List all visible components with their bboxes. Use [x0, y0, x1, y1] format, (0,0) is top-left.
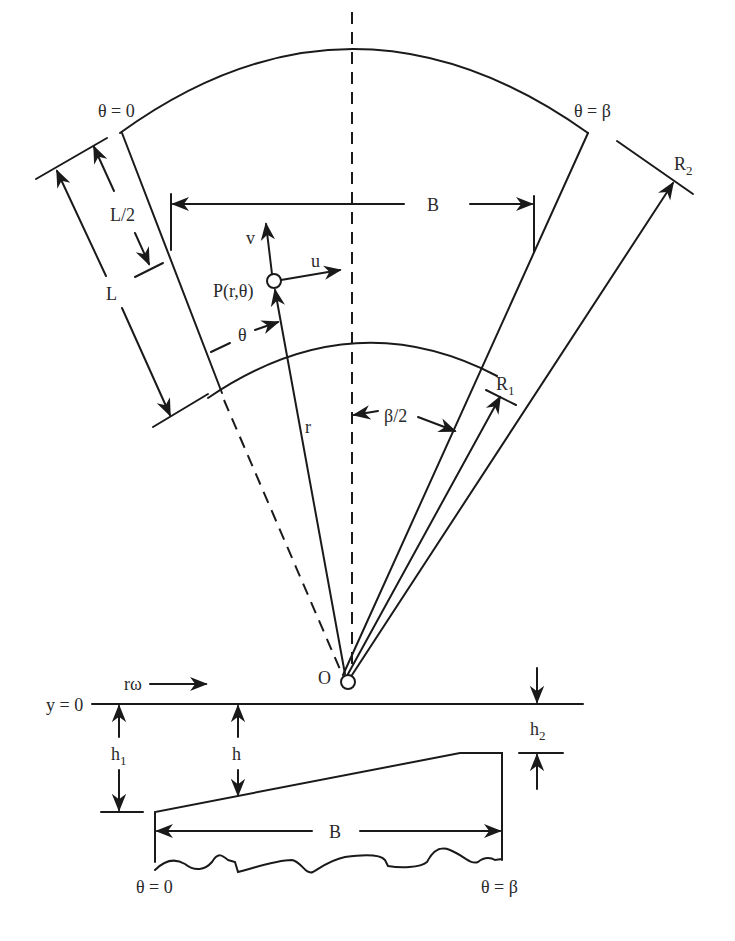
leading-edge-dashed	[224, 400, 342, 674]
length-ext-inner	[153, 394, 208, 427]
label-theta-angle: θ	[238, 325, 247, 345]
pad-rough-bottom	[155, 849, 502, 873]
half-angle-arrow-left	[354, 411, 378, 415]
label-inlet-film: h1	[111, 744, 127, 768]
half-length-arrow-up	[94, 147, 114, 191]
label-length: L	[106, 284, 117, 304]
length-ext-outer	[36, 138, 107, 179]
radius-r-line	[275, 290, 345, 674]
label-inner-radius: R1	[496, 374, 515, 398]
inner-arc	[208, 343, 497, 398]
label-velocity-u: u	[311, 251, 320, 271]
label-radius-r: r	[305, 417, 311, 437]
velocity-v-arrow	[266, 224, 272, 274]
label-datum: y = 0	[46, 695, 83, 715]
length-arrow-up	[57, 171, 106, 276]
leading-edge-line	[122, 133, 222, 393]
label-half-angle: β/2	[384, 406, 407, 426]
trailing-edge-line	[343, 133, 588, 675]
label-width-top: B	[427, 195, 439, 215]
label-surface-velocity: rω	[124, 674, 142, 694]
theta-arrow	[255, 322, 278, 330]
label-velocity-v: v	[246, 228, 255, 248]
point-p-marker	[267, 274, 281, 288]
theta-tick	[211, 343, 230, 352]
section-view: rω y = 0 h1 h h2 B θ = 0 θ = β	[46, 668, 583, 897]
label-width-bottom: B	[329, 822, 341, 842]
velocity-u-arrow	[281, 270, 340, 280]
half-length-tick	[135, 263, 163, 277]
label-theta-beta-top: θ = β	[574, 101, 611, 121]
label-theta-zero-top: θ = 0	[98, 101, 135, 121]
half-angle-arrow-right	[418, 417, 455, 431]
pad-profile	[155, 753, 502, 862]
label-theta-zero-bottom: θ = 0	[136, 877, 173, 897]
outer-radius-arrow	[352, 183, 673, 675]
inner-radius-arrow	[348, 397, 500, 674]
outer-arc	[120, 49, 588, 133]
length-arrow-down	[122, 308, 170, 415]
label-local-film: h	[232, 744, 241, 764]
label-theta-beta-bottom: θ = β	[481, 877, 518, 897]
label-outlet-film: h2	[530, 719, 546, 743]
label-outer-radius: R2	[674, 154, 693, 178]
half-length-arrow-down	[135, 233, 149, 264]
plan-view: θ = 0 θ = β R2 R1 B L L/2 P(r,θ) v u θ r…	[36, 12, 693, 689]
origin-marker	[341, 675, 355, 689]
label-half-length: L/2	[110, 205, 135, 225]
label-point: P(r,θ)	[213, 281, 253, 302]
label-origin: O	[318, 668, 331, 688]
thrust-pad-diagram: θ = 0 θ = β R2 R1 B L L/2 P(r,θ) v u θ r…	[0, 0, 735, 941]
